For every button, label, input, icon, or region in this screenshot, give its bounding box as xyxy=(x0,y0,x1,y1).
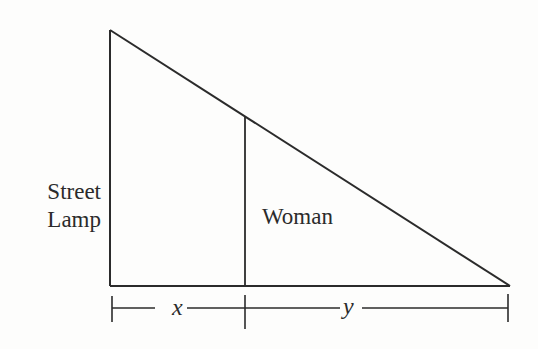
woman-label: Woman xyxy=(262,204,333,229)
street-lamp-label-line1: Street xyxy=(47,179,101,204)
y-variable-label: y xyxy=(341,293,354,319)
light-ray-hypotenuse xyxy=(110,30,510,286)
x-variable-label: x xyxy=(171,294,183,320)
street-lamp-label-line2: Lamp xyxy=(47,207,101,232)
similar-triangles-diagram: Street Lamp Woman x y xyxy=(0,0,538,349)
